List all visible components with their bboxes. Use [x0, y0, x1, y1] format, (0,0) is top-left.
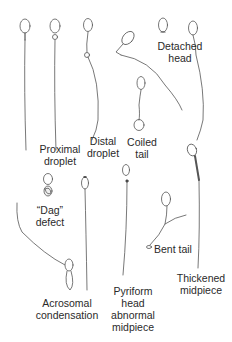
label-line: Proximal: [34, 143, 86, 155]
label-line: Detached: [152, 40, 208, 52]
label-bent-tail: Bent tail: [148, 243, 198, 255]
label-line: droplet: [34, 155, 86, 167]
label-line: defect: [30, 216, 70, 228]
label-acrosomal-condensation: Acrosomal condensation: [34, 297, 100, 321]
upper-right-sperm-illustration: [189, 21, 204, 140]
label-line: Pyriform: [110, 285, 156, 297]
label-pyriform-head: Pyriform head abnormal midpiece: [110, 285, 156, 333]
bent-tail-sperm-illustration: [147, 192, 187, 249]
label-coiled-tail: Coiled tail: [124, 136, 160, 160]
label-line: Acrosomal: [34, 297, 100, 309]
normal-sperm-illustration: [20, 19, 30, 150]
sperm-morphology-diagram: Detached head Proximal droplet Distal dr…: [0, 0, 232, 342]
acrosomal-condensation-sperm-illustration: [82, 177, 89, 290]
proximal-droplet-sperm-illustration: [50, 19, 60, 150]
dag-defect-sperm-illustration: [44, 174, 53, 197]
label-distal-droplet: Distal droplet: [83, 135, 123, 159]
label-line: Distal: [83, 135, 123, 147]
label-proximal-droplet: Proximal droplet: [34, 143, 86, 167]
label-line: abnormal: [110, 309, 156, 321]
label-line: head: [110, 297, 156, 309]
label-line: Bent tail: [148, 243, 198, 255]
label-line: “Dag”: [30, 204, 70, 216]
label-line: droplet: [83, 147, 123, 159]
label-line: Coiled: [124, 136, 160, 148]
label-line: Thickened: [174, 272, 228, 284]
label-thickened-midpiece: Thickened midpiece: [174, 272, 228, 296]
label-detached-head: Detached head: [152, 40, 208, 64]
label-dag-defect: “Dag” defect: [30, 204, 70, 228]
detached-head-illustration: [159, 18, 168, 32]
label-line: tail: [124, 148, 160, 160]
label-line: midpiece: [110, 321, 156, 333]
label-line: condensation: [34, 309, 100, 321]
label-line: midpiece: [174, 284, 228, 296]
coiled-tail-sperm-illustration: [134, 77, 145, 131]
pyriform-head-sperm-illustration: [123, 165, 130, 276]
label-line: head: [152, 52, 208, 64]
distal-droplet-sperm-illustration: [84, 19, 99, 141]
